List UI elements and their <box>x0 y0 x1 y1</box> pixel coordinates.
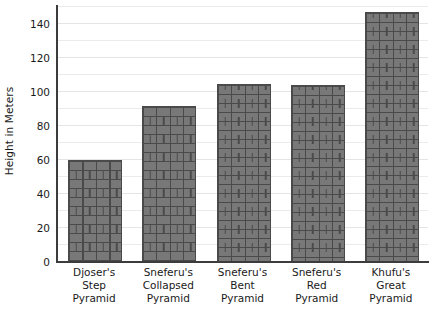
y-axis-tick-label: 0 <box>43 256 50 268</box>
brick-course <box>366 27 418 36</box>
brick-course <box>366 18 418 27</box>
y-axis-tick-label: 20 <box>37 222 50 234</box>
x-axis-label-line: Great <box>354 279 428 292</box>
y-axis-tick-label: 60 <box>37 154 50 166</box>
x-axis-label-line: Pyramid <box>205 292 279 305</box>
bar-chart-figure: Height in Meters 020406080100120140 Djos… <box>0 0 446 312</box>
brick-course <box>366 72 418 81</box>
brick-course <box>218 216 270 225</box>
brick-course <box>143 117 195 126</box>
brick-course <box>292 216 344 225</box>
brick-course <box>366 198 418 207</box>
x-axis-tick-label: Sneferu'sCollapsedPyramid <box>131 266 205 306</box>
x-axis-label-line: Red <box>280 279 354 292</box>
gridline <box>57 6 428 7</box>
brick-course <box>292 117 344 126</box>
brick-course <box>143 234 195 243</box>
brick-course <box>366 99 418 108</box>
x-axis-label-line: Pyramid <box>280 292 354 305</box>
brick-course <box>218 198 270 207</box>
bar[interactable] <box>365 12 419 262</box>
brick-course <box>366 207 418 216</box>
brick-course <box>69 171 121 180</box>
brick-course <box>69 162 121 171</box>
bar[interactable] <box>291 85 345 262</box>
brick-course <box>366 54 418 63</box>
brick-course <box>143 252 195 261</box>
brick-course <box>292 144 344 153</box>
brick-course <box>292 135 344 144</box>
brick-course <box>218 252 270 261</box>
brick-course <box>218 135 270 144</box>
x-axis-line <box>56 261 429 263</box>
brick-course <box>292 99 344 108</box>
brick-course <box>143 243 195 252</box>
brick-course <box>218 234 270 243</box>
brick-course <box>292 243 344 252</box>
brick-course <box>218 243 270 252</box>
brick-course <box>366 162 418 171</box>
x-axis-tick-label: Sneferu'sRedPyramid <box>280 266 354 306</box>
brick-course <box>366 45 418 54</box>
brick-course <box>366 243 418 252</box>
brick-course <box>143 216 195 225</box>
brick-course <box>69 160 121 162</box>
brick-course <box>366 216 418 225</box>
brick-course <box>218 108 270 117</box>
y-axis-tick-label: 100 <box>30 86 50 98</box>
brick-course <box>143 106 195 108</box>
x-axis-tick-label: Djoser'sStepPyramid <box>57 266 131 306</box>
brick-course <box>292 189 344 198</box>
brick-course <box>218 117 270 126</box>
brick-course <box>218 126 270 135</box>
brick-course <box>143 171 195 180</box>
x-axis-label-line: Khufu's <box>354 266 428 279</box>
bar[interactable] <box>68 160 122 262</box>
brick-course <box>366 225 418 234</box>
x-axis-label-line: Pyramid <box>354 292 428 305</box>
y-axis-title-text: Height in Meters <box>3 87 15 175</box>
y-axis-tick-label: 140 <box>30 18 50 30</box>
brick-course <box>143 162 195 171</box>
x-axis-tick-label: Sneferu'sBentPyramid <box>205 266 279 306</box>
brick-course <box>366 171 418 180</box>
brick-course <box>218 180 270 189</box>
brick-course <box>143 189 195 198</box>
x-axis-category-labels: Djoser'sStepPyramidSneferu'sCollapsedPyr… <box>57 266 428 312</box>
brick-course <box>292 234 344 243</box>
brick-course <box>143 207 195 216</box>
brick-course <box>366 153 418 162</box>
brick-course <box>218 189 270 198</box>
brick-course <box>69 234 121 243</box>
brick-course <box>143 144 195 153</box>
brick-course <box>69 243 121 252</box>
brick-course <box>292 225 344 234</box>
brick-course <box>366 117 418 126</box>
brick-course <box>292 198 344 207</box>
brick-course <box>366 12 418 18</box>
x-axis-label-line: Collapsed <box>131 279 205 292</box>
brick-course <box>366 180 418 189</box>
y-axis-title: Height in Meters <box>0 0 18 262</box>
brick-course <box>366 108 418 117</box>
brick-course <box>366 126 418 135</box>
x-axis-label-line: Pyramid <box>131 292 205 305</box>
brick-course <box>143 126 195 135</box>
brick-course <box>366 81 418 90</box>
bar[interactable] <box>217 84 271 263</box>
bar[interactable] <box>142 106 196 262</box>
brick-course <box>292 180 344 189</box>
brick-course <box>218 90 270 99</box>
brick-course <box>143 180 195 189</box>
brick-course <box>69 180 121 189</box>
x-axis-label-line: Sneferu's <box>131 266 205 279</box>
plot-area <box>57 7 428 262</box>
brick-course <box>69 252 121 261</box>
brick-course <box>292 90 344 99</box>
brick-course <box>69 225 121 234</box>
brick-course <box>218 99 270 108</box>
brick-course <box>366 63 418 72</box>
brick-course <box>143 198 195 207</box>
x-axis-label-line: Djoser's <box>57 266 131 279</box>
brick-course <box>292 207 344 216</box>
